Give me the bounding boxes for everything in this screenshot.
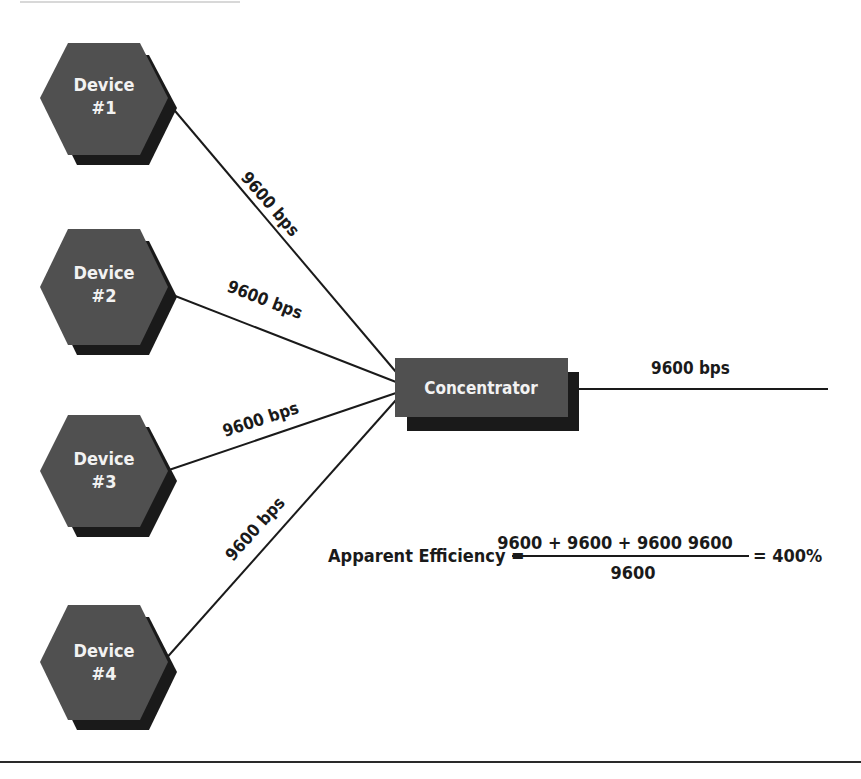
- device-node-1[interactable]: Device #1: [40, 43, 177, 165]
- efficiency-equation: Apparent Efficiency = 9600 + 9600 + 9600…: [328, 532, 822, 583]
- link-label-3: 9600 bps: [220, 397, 301, 440]
- device-label: Device: [73, 640, 134, 661]
- device-number: #4: [92, 663, 117, 684]
- device-number: #3: [92, 471, 117, 492]
- device-node-3[interactable]: Device #3: [40, 415, 177, 537]
- link-device-4: [163, 400, 396, 662]
- link-device-1: [170, 105, 396, 372]
- link-label-1: 9600 bps: [237, 168, 304, 241]
- device-label: Device: [73, 262, 134, 283]
- concentrator-label: Concentrator: [424, 378, 538, 398]
- device-label: Device: [73, 448, 134, 469]
- device-number: #1: [92, 97, 117, 118]
- device-node-2[interactable]: Device #2: [40, 229, 177, 355]
- concentrator-node[interactable]: Concentrator: [395, 358, 579, 431]
- equation-numerator: 9600 + 9600 + 9600 9600: [497, 532, 733, 553]
- output-link-label: 9600 bps: [651, 358, 730, 378]
- equation-denominator: 9600: [610, 562, 655, 583]
- link-label-4: 9600 bps: [221, 493, 289, 565]
- multiplexing-diagram: 9600 bps 9600 bps 9600 bps 9600 bps 9600…: [0, 0, 861, 779]
- equation-result: = 400%: [753, 545, 822, 566]
- device-label: Device: [73, 74, 134, 95]
- equation-lhs: Apparent Efficiency =: [328, 545, 525, 566]
- link-label-2: 9600 bps: [225, 276, 306, 323]
- device-node-4[interactable]: Device #4: [40, 605, 177, 730]
- device-number: #2: [92, 285, 117, 306]
